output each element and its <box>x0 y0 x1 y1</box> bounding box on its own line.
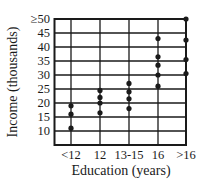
data-point <box>155 63 160 68</box>
y-axis-label: Income (thousands) <box>5 27 21 138</box>
x-tick-label: 12 <box>94 148 107 163</box>
data-point <box>155 54 160 59</box>
y-tick-label: 30 <box>38 69 51 81</box>
y-tick-label: 15 <box>38 111 51 123</box>
data-point <box>155 84 160 89</box>
data-point <box>155 72 160 77</box>
x-tick-label: >16 <box>176 148 196 163</box>
data-point <box>183 57 188 62</box>
y-tick-label: 25 <box>38 83 51 95</box>
data-point <box>97 88 102 93</box>
x-axis-label: Education (years) <box>54 163 188 179</box>
data-point <box>126 106 131 111</box>
data-point <box>97 110 102 115</box>
data-point <box>68 112 73 117</box>
data-point <box>97 95 102 100</box>
x-tick-label: 16 <box>152 148 165 163</box>
y-tick-label: 20 <box>38 97 51 109</box>
data-point <box>97 100 102 105</box>
data-point <box>68 103 73 108</box>
data-point <box>68 126 73 131</box>
data-point <box>155 36 160 41</box>
y-tick-label: 10 <box>38 125 51 137</box>
data-point <box>126 96 131 101</box>
data-point <box>183 37 188 42</box>
x-tick-label: 13-15 <box>114 148 143 163</box>
y-tick-label: 35 <box>38 55 51 67</box>
x-tick-label: <12 <box>61 148 81 163</box>
y-tick-label: ≥50 <box>31 13 50 25</box>
data-point <box>126 81 131 86</box>
y-tick-label: 40 <box>38 41 51 53</box>
data-point <box>126 89 131 94</box>
y-tick-label: 45 <box>38 27 51 39</box>
plot-frame <box>55 19 187 145</box>
data-point <box>183 16 188 21</box>
data-point <box>183 71 188 76</box>
y-axis-label-container: Income (thousands) <box>3 19 23 145</box>
grid-lines <box>55 19 187 145</box>
